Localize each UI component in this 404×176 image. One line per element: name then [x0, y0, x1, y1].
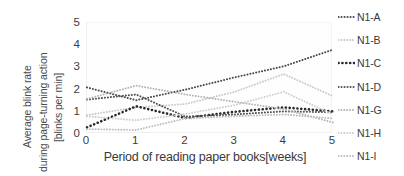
legend-item-n1-a[interactable]: N1-A	[338, 10, 381, 24]
y-axis-tick-label: 3	[74, 60, 80, 72]
legend-line-icon	[338, 12, 355, 22]
legend-item-n1-h[interactable]: N1-H	[338, 126, 381, 140]
legend-line-icon	[338, 128, 355, 138]
series-line-n1-b	[87, 74, 333, 115]
series-line-n1-i	[87, 114, 333, 130]
series-canvas	[87, 23, 333, 134]
chart-figure: Average blink rate during page-turning a…	[0, 0, 404, 176]
legend-item-label: N1-B	[357, 34, 381, 46]
legend-line-icon	[338, 35, 355, 45]
y-axis-tick-label: 0	[74, 127, 80, 139]
y-axis-tick-label: 2	[74, 83, 80, 95]
y-axis-title-line-2: during page-turning action	[37, 53, 49, 172]
series-line-n1-a	[87, 50, 333, 101]
legend: N1-AN1-BN1-CN1-DN1-GN1-HN1-I	[338, 6, 404, 172]
x-axis-tick-label: 2	[181, 134, 187, 146]
y-axis-title-line-1: Average blink rate	[21, 65, 33, 148]
series-line-n1-g	[87, 86, 333, 123]
x-axis-tick-label: 1	[132, 134, 138, 146]
x-axis-tick-label: 5	[329, 134, 335, 146]
legend-item-label: N1-G	[357, 104, 382, 116]
legend-item-label: N1-A	[357, 11, 381, 23]
legend-item-label: N1-I	[357, 150, 376, 162]
legend-item-label: N1-H	[357, 127, 381, 139]
legend-line-icon	[338, 82, 355, 92]
legend-item-n1-d[interactable]: N1-D	[338, 80, 381, 94]
y-axis-tick-label: 1	[74, 105, 80, 117]
legend-item-n1-c[interactable]: N1-C	[338, 56, 381, 70]
legend-item-n1-g[interactable]: N1-G	[338, 103, 382, 117]
y-axis-title: Average blink rate during page-turning a…	[0, 0, 62, 176]
y-axis-tick-label: 5	[74, 16, 80, 28]
legend-item-label: N1-C	[357, 57, 381, 69]
y-axis-tick-label: 4	[74, 38, 80, 50]
x-axis-tick-label: 3	[230, 134, 236, 146]
x-axis-tick-label: 0	[83, 134, 89, 146]
legend-line-icon	[338, 151, 355, 161]
x-axis-title: Period of reading paper books[weeks]	[60, 150, 350, 164]
legend-item-n1-b[interactable]: N1-B	[338, 33, 381, 47]
legend-item-n1-i[interactable]: N1-I	[338, 149, 376, 163]
legend-item-label: N1-D	[357, 81, 381, 93]
legend-line-icon	[338, 58, 355, 68]
x-axis-tick-label: 4	[280, 134, 286, 146]
plot-area	[86, 22, 332, 133]
legend-line-icon	[338, 105, 355, 115]
